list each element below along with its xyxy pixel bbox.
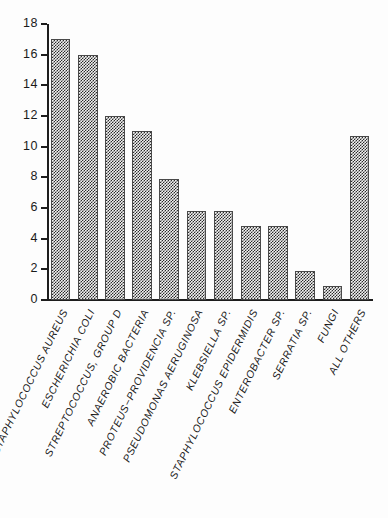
- y-tick-label: 14: [23, 77, 38, 91]
- bar-slot: [47, 24, 74, 300]
- bar[interactable]: [350, 136, 370, 300]
- y-tick-label: 10: [23, 139, 38, 153]
- bar[interactable]: [51, 39, 71, 300]
- category-labels: STAPHYLOCOCCUS AUREUSESCHERICHIA COLISTR…: [47, 303, 373, 513]
- y-tick-label: 4: [31, 231, 38, 245]
- label-slot: ALL OTHERS: [346, 303, 373, 513]
- bar-slot: [346, 24, 373, 300]
- y-tick-label: 12: [23, 108, 38, 122]
- bar-chart: 181614121086420 STAPHYLOCOCCUS AUREUSESC…: [0, 0, 388, 518]
- y-tick-label: 6: [31, 200, 38, 214]
- y-tick-label: 16: [23, 47, 38, 61]
- label-slot: PROTEUS−PROVIDENCIA SP.: [156, 303, 183, 513]
- label-slot: SERRATIA SP.: [292, 303, 319, 513]
- y-tick-label: 2: [31, 261, 38, 275]
- y-tick-label: 0: [31, 292, 38, 306]
- y-tick-label: 18: [23, 16, 38, 30]
- category-label-text: FUNGI: [315, 307, 341, 344]
- label-slot: STAPHYLOCOCCUS EPIDERMIDIS: [237, 303, 264, 513]
- label-slot: FUNGI: [319, 303, 346, 513]
- label-slot: ENTEROBACTER SP.: [264, 303, 291, 513]
- y-tick-label: 8: [31, 169, 38, 183]
